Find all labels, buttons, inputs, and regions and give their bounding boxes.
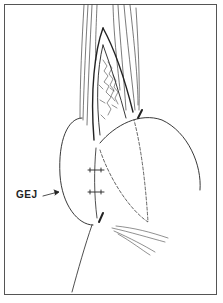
wrap-seam bbox=[95, 148, 97, 218]
gej-label: GEJ bbox=[16, 189, 38, 200]
fundus-right bbox=[100, 118, 200, 190]
stomach-body-line bbox=[72, 225, 92, 292]
gej-arrow bbox=[43, 190, 59, 196]
sutures bbox=[88, 110, 142, 222]
vessels-lower bbox=[112, 226, 168, 255]
illustration bbox=[0, 0, 223, 303]
fundus-left bbox=[60, 118, 93, 225]
mucosa-pattern bbox=[99, 60, 118, 119]
